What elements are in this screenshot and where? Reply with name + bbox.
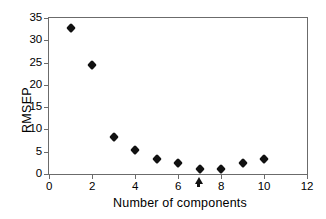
data-point [173,158,183,168]
y-axis-tick [44,107,49,108]
y-axis-tick [44,40,49,41]
y-axis-tick-label: 30 [30,35,42,47]
y-axis-tick-label: 0 [36,168,42,180]
data-point [87,60,97,70]
plot-area: 05101520253035024681012 [48,17,308,175]
x-axis-tick [221,174,222,179]
x-axis-tick [92,174,93,179]
y-axis-tick [44,152,49,153]
data-point [216,164,226,174]
x-axis-tick [178,174,179,179]
y-axis-tick-label: 20 [30,79,42,91]
x-axis-title-text: Number of components [79,196,247,210]
data-point [195,164,205,174]
y-axis-tick-label: 5 [36,146,42,158]
data-point [109,132,119,142]
data-point [259,154,269,164]
y-axis-tick [44,63,49,64]
data-point [66,23,76,33]
x-axis-tick-label: 0 [46,181,52,193]
x-axis-tick-label: 6 [175,181,181,193]
optimum-arrow-icon [195,177,203,184]
y-axis-tick [44,85,49,86]
x-axis-tick [49,174,50,179]
x-axis-tick-label: 12 [301,181,313,193]
data-point [238,158,248,168]
data-point [152,154,162,164]
y-axis-tick-label: 15 [30,101,42,113]
rmsep-scatter-figure: RMSEP 05101520253035024681012 Number of … [0,0,326,219]
data-point [130,145,140,155]
x-axis-tick-label: 10 [258,181,270,193]
x-axis-tick [135,174,136,179]
x-axis-tick-label: 4 [132,181,138,193]
y-axis-tick-label: 35 [30,12,42,24]
y-axis-tick [44,18,49,19]
x-axis-tick [264,174,265,179]
y-axis-tick-label: 25 [30,57,42,69]
y-axis-tick [44,129,49,130]
y-axis-tick-label: 10 [30,124,42,136]
x-axis-tick-label: 8 [218,181,224,193]
x-axis-tick [307,174,308,179]
x-axis-tick-label: 2 [89,181,95,193]
x-axis-title: Number of components [0,196,326,210]
